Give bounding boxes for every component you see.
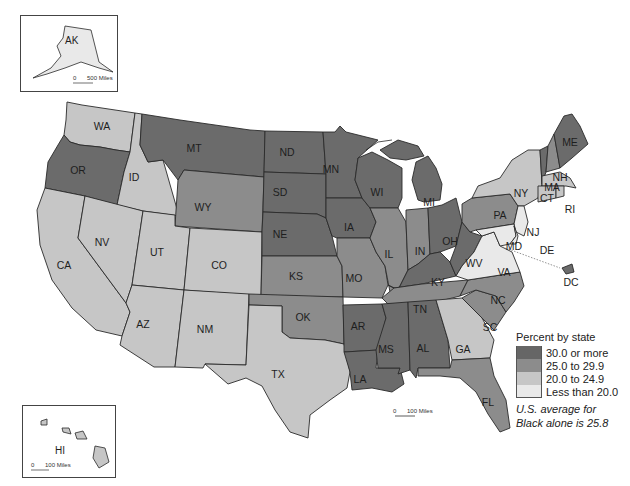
label-WI: WI — [371, 186, 384, 198]
legend-note-line1: U.S. average for — [516, 402, 628, 416]
legend-label: 30.0 or more — [546, 347, 608, 359]
legend-item: 20.0 to 24.9 — [516, 372, 628, 385]
label-MS: MS — [378, 343, 394, 355]
label-NM: NM — [197, 323, 213, 335]
label-IL: IL — [385, 248, 394, 260]
state-WY — [175, 170, 264, 232]
label-KY: KY — [431, 276, 445, 288]
label-WY: WY — [195, 201, 212, 213]
svg-text:0: 0 — [73, 75, 77, 81]
label-WV: WV — [466, 257, 483, 269]
legend-swatch — [516, 346, 542, 359]
label-KS: KS — [289, 270, 303, 282]
label-MT: MT — [186, 142, 202, 154]
label-NE: NE — [273, 228, 288, 240]
label-CA: CA — [57, 259, 72, 271]
label-AL: AL — [417, 342, 430, 354]
label-UT: UT — [150, 246, 165, 258]
svg-text:0: 0 — [393, 408, 397, 414]
hawaii-island-kauai — [41, 419, 47, 425]
label-VA: VA — [497, 266, 510, 278]
label-RI: RI — [565, 203, 576, 215]
label-IN: IN — [415, 245, 426, 257]
label-NJ: NJ — [527, 226, 540, 238]
alaska-inset: AK 0 500 Miles — [20, 15, 118, 92]
svg-text:100 Miles: 100 Miles — [45, 462, 71, 468]
label-MN: MN — [323, 163, 339, 175]
legend-swatch — [516, 359, 542, 372]
label-SD: SD — [273, 186, 288, 198]
label-FL: FL — [482, 396, 494, 408]
label-AR: AR — [351, 320, 366, 332]
state-FL — [418, 358, 510, 432]
label-GA: GA — [455, 343, 470, 355]
label-CO: CO — [211, 259, 227, 271]
svg-text:100 Miles: 100 Miles — [407, 408, 433, 414]
hawaii-island-maui — [75, 431, 87, 439]
state-MI-upper — [380, 140, 424, 160]
label-DC: DC — [563, 276, 579, 288]
label-AZ: AZ — [136, 318, 150, 330]
main-scale-bar: 0 100 Miles — [393, 408, 433, 416]
label-HI: HI — [55, 445, 65, 456]
label-OR: OR — [70, 164, 86, 176]
legend-item: 30.0 or more — [516, 346, 628, 359]
legend-note-line2: Black alone is 25.8 — [516, 416, 628, 430]
state-AK — [33, 26, 113, 78]
legend-swatch — [516, 372, 542, 385]
svg-text:500 Miles: 500 Miles — [87, 75, 113, 81]
label-IA: IA — [344, 221, 354, 233]
legend-swatch — [516, 385, 542, 398]
label-PA: PA — [493, 209, 506, 221]
label-DE: DE — [540, 244, 555, 256]
legend-label: Less than 20.0 — [546, 386, 618, 398]
label-WA: WA — [94, 120, 111, 132]
label-OH: OH — [442, 235, 458, 247]
label-NC: NC — [490, 294, 506, 306]
legend-title: Percent by state — [516, 331, 628, 343]
label-MO: MO — [346, 272, 363, 284]
legend-item: Less than 20.0 — [516, 385, 628, 398]
hawaii-island-oahu — [62, 428, 71, 434]
legend-note: U.S. average for Black alone is 25.8 — [516, 402, 628, 430]
legend-label: 25.0 to 29.9 — [546, 360, 604, 372]
label-CT: CT — [540, 192, 555, 204]
label-LA: LA — [354, 373, 367, 385]
state-ND — [264, 131, 326, 174]
svg-text:0: 0 — [31, 462, 35, 468]
state-DC — [562, 264, 574, 274]
label-SC: SC — [483, 321, 498, 333]
label-AK: AK — [65, 35, 79, 46]
label-OK: OK — [295, 311, 310, 323]
state-AZ — [120, 285, 184, 367]
label-ND: ND — [279, 146, 295, 158]
label-NV: NV — [95, 236, 110, 248]
label-MD: MD — [506, 240, 523, 252]
legend-item: 25.0 to 29.9 — [516, 359, 628, 372]
label-NY: NY — [514, 187, 529, 199]
hawaii-inset: HI 0 100 Miles — [22, 405, 116, 478]
legend-label: 20.0 to 24.9 — [546, 373, 604, 385]
label-TX: TX — [271, 368, 284, 380]
hawaii-island-big-island — [93, 446, 109, 468]
legend: Percent by state 30.0 or more 25.0 to 29… — [516, 331, 628, 430]
label-ME: ME — [562, 136, 578, 148]
label-TN: TN — [413, 303, 427, 315]
label-ID: ID — [129, 171, 140, 183]
label-MI: MI — [423, 196, 435, 208]
